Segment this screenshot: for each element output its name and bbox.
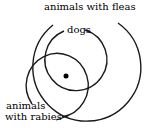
fleas-circle bbox=[33, 23, 141, 121]
rabies-label-line2: with rabies bbox=[5, 112, 62, 122]
element-dot bbox=[64, 74, 69, 79]
dogs-label: dogs bbox=[67, 25, 91, 35]
rabies-label-line1: animals bbox=[6, 101, 45, 111]
venn-diagram: animals with fleas dogs animals with rab… bbox=[0, 0, 146, 131]
fleas-label: animals with fleas bbox=[44, 2, 136, 12]
